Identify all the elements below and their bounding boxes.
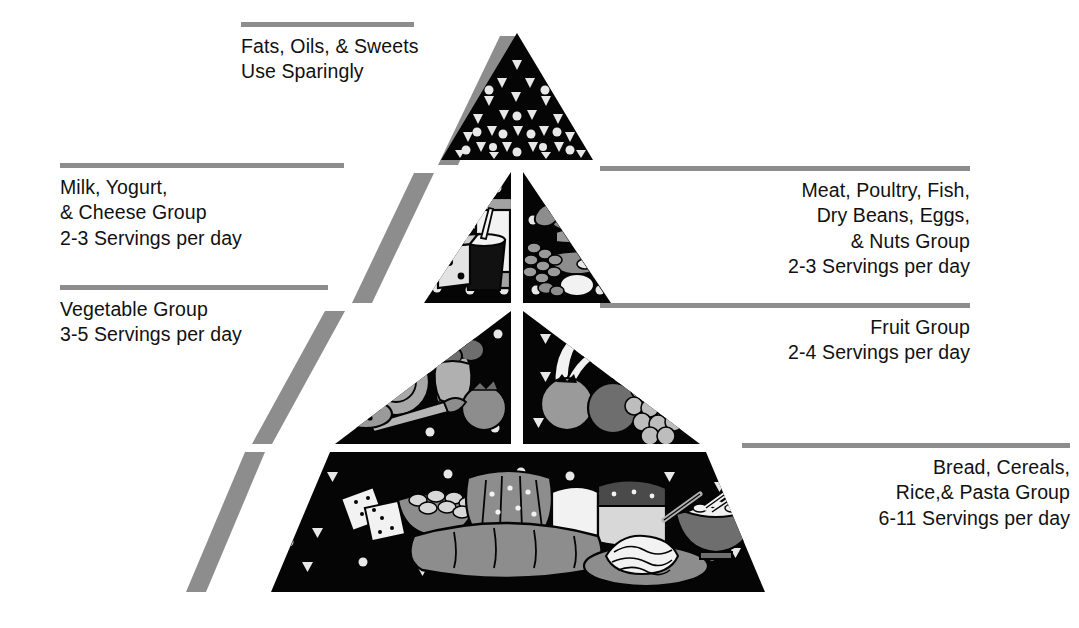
food-pyramid-page: Fats, Oils, & Sweets Use Sparingly Milk,… [0, 0, 1079, 628]
label-fruit-group: Fruit Group 2-4 Servings per day [600, 303, 970, 366]
label-bread-line-2: Rice,& Pasta Group [742, 480, 1070, 505]
label-rule-fruit [600, 303, 970, 308]
label-meat-servings: 2-3 Servings per day [600, 254, 970, 279]
pyramid-tier-bread [271, 452, 765, 592]
label-rule-milk [60, 163, 344, 168]
label-meat-poultry-fish-group: Meat, Poultry, Fish, Dry Beans, Eggs, & … [600, 166, 970, 279]
pyramid-tier-meat [523, 172, 611, 303]
label-fats-oils-sweets: Fats, Oils, & Sweets Use Sparingly [241, 22, 414, 85]
label-meat-line-2: Dry Beans, Eggs, [600, 203, 970, 228]
label-fats-line-2: Use Sparingly [241, 59, 414, 84]
pyramid-tier-milk [424, 172, 512, 303]
label-fruit-servings: 2-4 Servings per day [600, 340, 970, 365]
label-milk-yogurt-cheese-group: Milk, Yogurt, & Cheese Group 2-3 Serving… [60, 163, 344, 251]
label-fats-line-1: Fats, Oils, & Sweets [241, 34, 414, 59]
label-fruit-line-1: Fruit Group [600, 315, 970, 340]
label-milk-line-1: Milk, Yogurt, [60, 175, 344, 200]
label-milk-line-2: & Cheese Group [60, 200, 344, 225]
label-rule-vegetable [60, 285, 328, 290]
label-rule-meat [600, 166, 970, 171]
pyramid-tier-fats [441, 33, 593, 160]
label-rule-fats [241, 22, 414, 27]
pyramid-tier-vegetable [335, 311, 511, 444]
label-vegetable-line-1: Vegetable Group [60, 297, 328, 322]
label-bread-line-1: Bread, Cereals, [742, 455, 1070, 480]
label-rule-bread [742, 443, 1070, 448]
label-bread-servings: 6-11 Servings per day [742, 506, 1070, 531]
label-vegetable-servings: 3-5 Servings per day [60, 322, 328, 347]
label-milk-servings: 2-3 Servings per day [60, 226, 344, 251]
label-vegetable-group: Vegetable Group 3-5 Servings per day [60, 285, 328, 348]
label-meat-line-1: Meat, Poultry, Fish, [600, 178, 970, 203]
label-meat-line-3: & Nuts Group [600, 229, 970, 254]
label-bread-cereals-rice-pasta-group: Bread, Cereals, Rice,& Pasta Group 6-11 … [742, 443, 1070, 531]
